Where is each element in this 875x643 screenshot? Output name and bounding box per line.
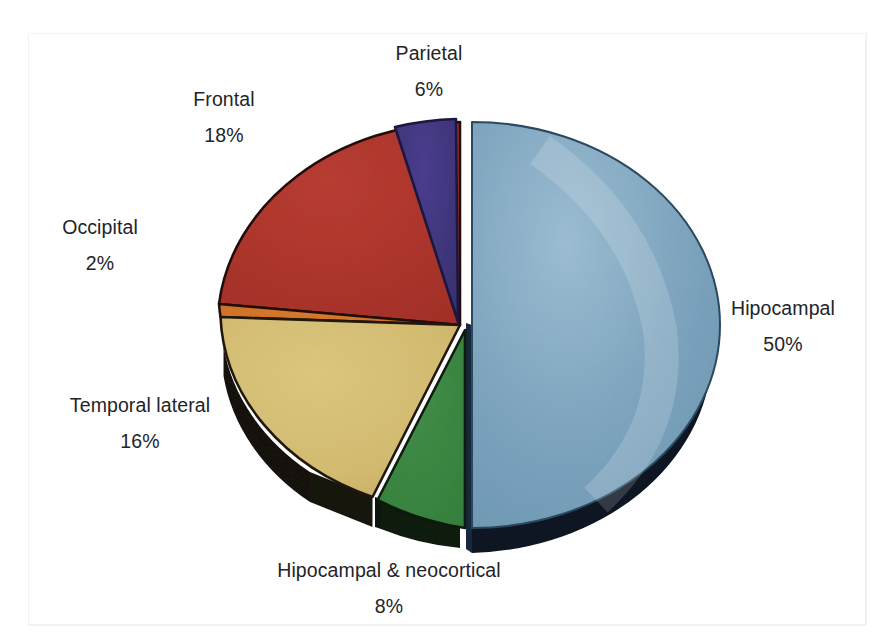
label-frontal-value: 18% (193, 126, 254, 146)
label-hipocampal: Hipocampal 50% (731, 299, 835, 354)
label-hipocampal-neocortical-value: 8% (277, 597, 501, 617)
pie-chart-figure: Parietal 6% Frontal 18% Occipital 2% Tem… (0, 0, 875, 643)
label-temporal-lateral-name: Temporal lateral (70, 396, 210, 416)
label-occipital-value: 2% (62, 254, 138, 274)
label-hipocampal-neocortical-name: Hipocampal & neocortical (277, 561, 501, 581)
label-hipocampal-value: 50% (731, 335, 835, 355)
label-occipital-name: Occipital (62, 218, 138, 238)
label-hipocampal-name: Hipocampal (731, 299, 835, 319)
label-temporal-lateral-value: 16% (70, 432, 210, 452)
label-parietal-name: Parietal (396, 44, 463, 64)
label-hipocampal-neocortical: Hipocampal & neocortical 8% (277, 561, 501, 616)
label-parietal-value: 6% (396, 80, 463, 100)
label-frontal: Frontal 18% (193, 90, 254, 145)
label-temporal-lateral: Temporal lateral 16% (70, 396, 210, 451)
label-occipital: Occipital 2% (62, 218, 138, 273)
label-parietal: Parietal 6% (396, 44, 463, 99)
label-frontal-name: Frontal (193, 90, 254, 110)
